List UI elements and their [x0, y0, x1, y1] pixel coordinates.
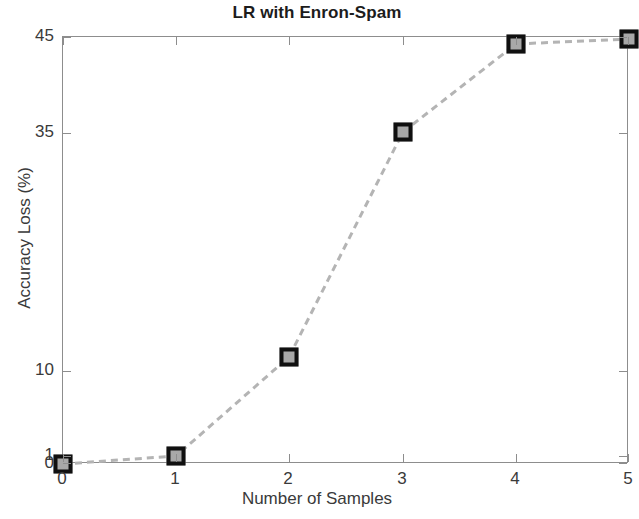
x-tick-label: 5	[623, 469, 632, 489]
chart-title: LR with Enron-Spam	[0, 3, 634, 23]
y-tick-mark	[619, 37, 627, 38]
x-tick-mark	[176, 454, 177, 462]
x-tick-mark	[289, 454, 290, 462]
y-tick-mark	[619, 463, 627, 464]
x-tick-mark	[403, 37, 404, 45]
y-tick-mark	[619, 371, 627, 372]
y-tick-label: 10	[0, 360, 54, 380]
y-tick-mark	[63, 371, 71, 372]
data-point-marker	[280, 348, 299, 367]
y-tick-mark	[619, 133, 627, 134]
x-tick-mark	[289, 37, 290, 45]
y-tick-label: 45	[0, 26, 54, 46]
x-tick-label: 2	[283, 469, 292, 489]
x-tick-mark	[628, 37, 629, 45]
y-tick-mark	[619, 456, 627, 457]
y-tick-mark	[63, 37, 71, 38]
data-point-marker	[620, 30, 639, 49]
series-line	[63, 37, 629, 464]
x-tick-label: 4	[510, 469, 519, 489]
y-axis-title: Accuracy Loss (%)	[15, 118, 35, 358]
x-tick-label: 3	[397, 469, 406, 489]
plot-area	[62, 36, 628, 463]
x-tick-mark	[63, 37, 64, 45]
x-tick-label: 1	[170, 469, 179, 489]
x-tick-label: 0	[57, 469, 66, 489]
x-axis-title: Number of Samples	[0, 489, 634, 509]
x-tick-mark	[403, 454, 404, 462]
x-tick-mark	[516, 37, 517, 45]
data-point-marker	[394, 123, 413, 142]
series-polyline	[63, 39, 629, 464]
x-tick-mark	[176, 37, 177, 45]
y-tick-mark	[63, 463, 71, 464]
x-tick-mark	[628, 454, 629, 462]
x-tick-mark	[516, 454, 517, 462]
y-tick-mark	[63, 456, 71, 457]
y-tick-label: 1	[0, 445, 54, 465]
y-tick-mark	[63, 133, 71, 134]
